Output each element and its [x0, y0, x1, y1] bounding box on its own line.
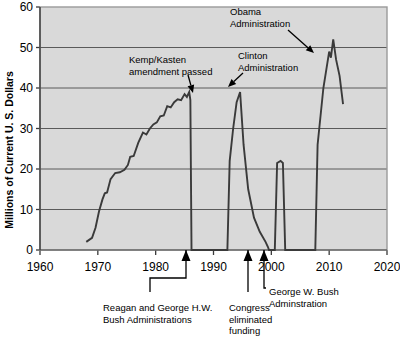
- y-tick-label-60: 60: [20, 0, 34, 14]
- annotation-kemp-kasten-line-1: amendment passed: [129, 66, 212, 77]
- annotation-clinton-line-1: Administration: [238, 62, 298, 73]
- annotation-gw-bush-line-0: George W. Bush: [269, 286, 339, 297]
- y-tick-label-0: 0: [26, 243, 33, 257]
- y-tick-label-20: 20: [20, 162, 34, 176]
- funding-line-chart: 0102030405060 19601970198019902000201020…: [0, 0, 400, 340]
- annotation-reagan-bush-line-1: Bush Administrations: [103, 314, 192, 325]
- annotation-congress-eliminated-line-2: funding: [229, 325, 260, 336]
- annotation-obama-line-1: Administration: [230, 18, 290, 29]
- x-tick-label-2010: 2010: [316, 260, 343, 274]
- chart-container: 0102030405060 19601970198019902000201020…: [0, 0, 400, 340]
- annotation-obama-line-0: Obama: [230, 6, 262, 17]
- y-tick-label-10: 10: [20, 203, 34, 217]
- x-tick-label-1970: 1970: [84, 260, 111, 274]
- y-tick-label-50: 50: [20, 41, 34, 55]
- x-tick-label-1990: 1990: [200, 260, 227, 274]
- annotation-congress-eliminated-line-1: eliminated: [229, 314, 272, 325]
- x-tick-label-2020: 2020: [374, 260, 400, 274]
- y-axis-title: Millions of Current U. S. Dollars: [3, 71, 15, 229]
- annotation-reagan-bush-line-0: Reagan and George H.W.: [103, 302, 212, 313]
- y-tick-label-40: 40: [20, 81, 34, 95]
- annotation-gw-bush-line-1: Adminstration: [269, 298, 327, 309]
- x-tick-label-2000: 2000: [258, 260, 285, 274]
- x-tick-label-1980: 1980: [142, 260, 169, 274]
- annotation-kemp-kasten-line-0: Kemp/Kasten: [129, 54, 186, 65]
- annotation-clinton-line-0: Clinton: [238, 50, 268, 61]
- y-tick-label-30: 30: [20, 122, 34, 136]
- x-tick-label-1960: 1960: [27, 260, 54, 274]
- annotation-congress-eliminated-line-0: Congress: [229, 302, 270, 313]
